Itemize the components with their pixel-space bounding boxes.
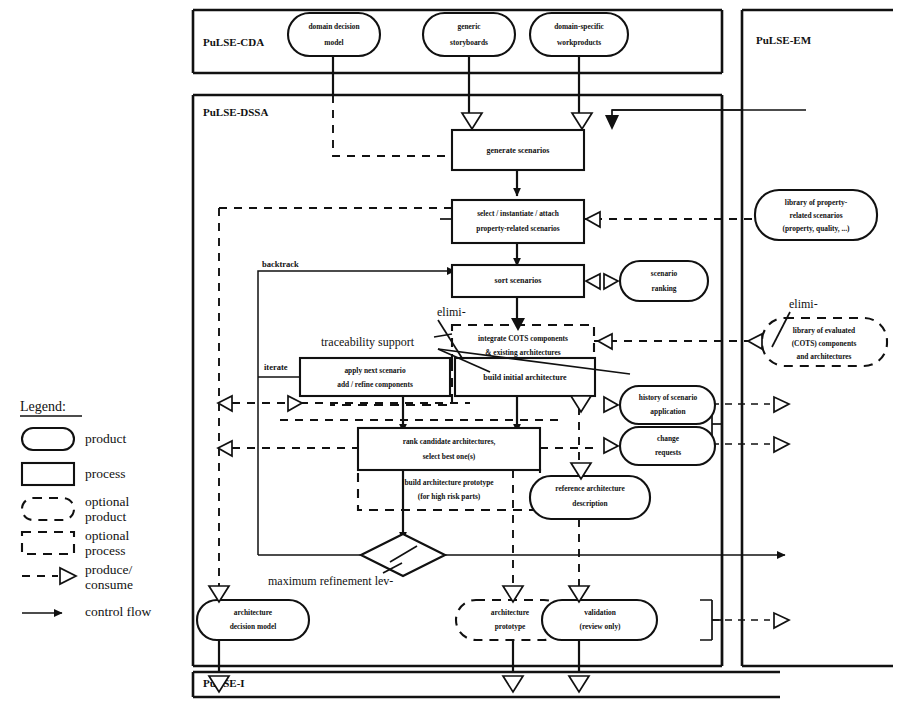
legend-label: optional bbox=[85, 494, 129, 509]
flow-backtrack bbox=[258, 271, 455, 555]
node-label: sort scenarios bbox=[495, 276, 542, 285]
band-label-cda: PuLSE-CDA bbox=[203, 36, 264, 48]
node-label: reference architecture bbox=[555, 484, 625, 493]
node-label: build architecture prototype bbox=[404, 478, 494, 487]
process-rank-candidate-architectures[interactable]: rank candidate architectures, select bes… bbox=[358, 428, 540, 470]
produce-arrow-em-change bbox=[774, 437, 789, 452]
node-label: and architectures bbox=[797, 352, 852, 361]
node-label: description bbox=[572, 499, 607, 508]
legend-symbol-produce-consume-arrow bbox=[60, 568, 76, 584]
bracket-validation bbox=[700, 600, 712, 640]
legend-item-optional-process: optional process bbox=[22, 528, 129, 558]
legend: Legend: product process optional product… bbox=[20, 399, 152, 619]
consume-arrow-rail-apply bbox=[218, 396, 232, 411]
process-generate-scenarios[interactable]: generate scenarios bbox=[452, 130, 584, 170]
legend-symbol-process bbox=[22, 463, 74, 485]
produce-arrow-ranking bbox=[604, 274, 618, 289]
annotation-backtrack: backtrack bbox=[262, 259, 299, 269]
node-label: prototype bbox=[495, 622, 526, 631]
produce-arrow-em-validation bbox=[774, 613, 789, 628]
annotation-iterate: iterate bbox=[264, 362, 288, 372]
produce-arrow-apply bbox=[288, 396, 302, 411]
node-label: (for high risk parts) bbox=[418, 492, 481, 501]
band-label-dssa: PuLSE-DSSA bbox=[203, 106, 268, 118]
consume-arrow-rail-rank bbox=[218, 441, 232, 456]
process-apply-next-scenario[interactable]: apply next scenario add / refine compone… bbox=[300, 358, 450, 396]
legend-symbol-product bbox=[22, 428, 74, 450]
legend-label: produce/ bbox=[85, 562, 132, 577]
node-label: domain decision bbox=[308, 22, 359, 31]
node-label: ranking bbox=[651, 284, 676, 293]
legend-item-optional-product: optional product bbox=[22, 494, 129, 524]
node-label: architecture bbox=[234, 608, 273, 617]
process-select-instantiate-attach[interactable]: select / instantiate / attach property-r… bbox=[452, 200, 584, 243]
legend-item-process: process bbox=[22, 463, 126, 485]
node-label: library of property- bbox=[785, 198, 848, 207]
node-label: (review only) bbox=[579, 622, 621, 631]
product-domain-specific-workproducts[interactable]: domain-specific workproducts bbox=[530, 13, 628, 56]
consume-arrow-storyboards bbox=[462, 113, 482, 129]
node-label: property-related scenarios bbox=[476, 224, 559, 233]
product-generic-storyboards[interactable]: generic storyboards bbox=[423, 13, 515, 56]
band-label-em: PuLSE-EM bbox=[756, 34, 812, 46]
node-label: build initial architecture bbox=[483, 373, 567, 382]
produce-arrow-history bbox=[604, 397, 618, 412]
annotation-traceability-support: traceability support bbox=[321, 335, 415, 349]
produce-arrow-change bbox=[604, 438, 618, 453]
legend-label: product bbox=[85, 431, 126, 446]
legend-symbol-optional-process bbox=[22, 532, 74, 554]
product-architecture-decision-model[interactable]: architecture decision model bbox=[197, 600, 309, 640]
consume-arrow-select bbox=[586, 212, 600, 227]
consume-arrow-prototype bbox=[503, 586, 523, 602]
node-label: (property, quality, ...) bbox=[783, 224, 851, 233]
product-library-property-related-scenarios[interactable]: library of property- related scenarios (… bbox=[755, 190, 877, 240]
node-label: history of scenario bbox=[639, 393, 698, 402]
product-change-requests[interactable]: change requests bbox=[620, 427, 715, 465]
node-label: architecture bbox=[491, 608, 530, 617]
node-label: domain-specific bbox=[554, 22, 604, 31]
process-build-initial-architecture[interactable]: build initial architecture bbox=[455, 358, 595, 396]
legend-label: process bbox=[85, 543, 126, 558]
legend-label: consume bbox=[85, 577, 133, 592]
node-label: storyboards bbox=[450, 38, 488, 47]
node-label: workproducts bbox=[557, 38, 601, 47]
node-label: rank candidate architectures, bbox=[403, 437, 496, 446]
consume-arrow-i-prototype bbox=[503, 676, 523, 692]
annotation-elimi-right: elimi- bbox=[789, 297, 818, 311]
node-label: library of evaluated bbox=[793, 326, 856, 335]
legend-title: Legend: bbox=[20, 399, 66, 414]
node-label: scenario bbox=[651, 269, 678, 278]
node-label: integrate COTS components bbox=[478, 334, 568, 343]
product-validation[interactable]: validation (review only) bbox=[542, 600, 657, 640]
consume-arrow-cotslib bbox=[748, 334, 762, 349]
legend-label: optional bbox=[85, 528, 129, 543]
process-sort-scenarios[interactable]: sort scenarios bbox=[452, 265, 584, 297]
band-pulse-i: PuLSE-I bbox=[193, 672, 780, 697]
legend-label: control flow bbox=[85, 604, 152, 619]
node-label: generic bbox=[458, 22, 482, 31]
node-label: change bbox=[657, 434, 680, 443]
produce-arrow-em-history bbox=[774, 397, 789, 412]
consume-arrow-workproducts bbox=[572, 113, 592, 129]
product-domain-decision-model[interactable]: domain decision model bbox=[288, 13, 380, 56]
optional-product-library-evaluated-cots[interactable]: library of evaluated (COTS) components a… bbox=[762, 318, 887, 366]
product-scenario-ranking[interactable]: scenario ranking bbox=[620, 261, 708, 301]
node-label: generate scenarios bbox=[487, 146, 550, 155]
node-label: application bbox=[650, 407, 685, 416]
node-label: (COTS) components bbox=[792, 339, 857, 348]
leader-elimi-right bbox=[772, 312, 790, 347]
node-label: decision model bbox=[230, 622, 277, 631]
control-arrow-em-generate bbox=[605, 115, 619, 130]
pulse-dssa-diagram: PuLSE-CDA PuLSE-DSSA PuLSE-I PuLSE-EM bbox=[0, 0, 897, 704]
legend-item-product: product bbox=[22, 428, 126, 450]
node-label: validation bbox=[584, 608, 616, 617]
legend-label: process bbox=[85, 466, 126, 481]
diagram-canvas: PuLSE-CDA PuLSE-DSSA PuLSE-I PuLSE-EM bbox=[0, 0, 897, 704]
decision-maximum-refinement-level[interactable] bbox=[361, 534, 445, 576]
node-label: select / instantiate / attach bbox=[477, 209, 559, 218]
node-label: add / refine components bbox=[337, 380, 413, 389]
node-label: model bbox=[324, 38, 343, 47]
annotation-maximum-refinement-level: maximum refinement lev- bbox=[268, 574, 393, 588]
product-reference-architecture-description[interactable]: reference architecture description bbox=[530, 476, 650, 519]
product-history-of-scenario-application[interactable]: history of scenario application bbox=[620, 386, 715, 424]
